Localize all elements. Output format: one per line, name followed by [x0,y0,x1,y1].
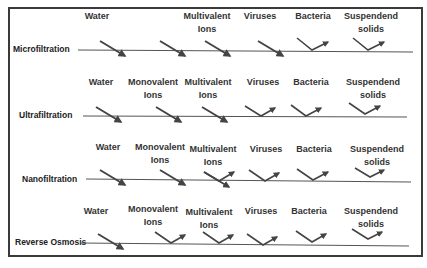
label-suspended-solids: Suspendend [344,11,398,21]
membrane-line [78,50,413,52]
label-viruses: Viruses [245,206,277,216]
label-monovalent: Monovalent [135,142,185,152]
reject-arrow-icon [155,232,185,243]
label-suspended-solids-2: solids [358,24,384,34]
label-multivalent-2: Ions [204,157,223,167]
label-bacteria: Bacteria [295,11,332,21]
label-suspended-solids-2: solids [364,157,390,167]
pass-arrow-icon [100,41,125,56]
reject-arrow-icon [203,232,233,243]
label-water: Water [96,142,121,152]
reject-arrow-icon [245,106,275,116]
label-viruses: Viruses [247,77,279,87]
label-suspended-solids: Suspendend [350,144,404,154]
label-suspended-solids-2: solids [358,219,384,229]
label-monovalent-2: Ions [151,155,170,165]
row-reverse-osmosis: Reverse Osmosis Water Monovalent Ions Mu… [15,204,409,249]
label-suspended-solids-2: solids [360,90,386,100]
label-monovalent-2: Ions [144,90,163,100]
filtration-diagram: Microfiltration Water Multivalent Ions V… [0,0,427,268]
label-water: Water [89,77,114,87]
label-viruses: Viruses [250,144,282,154]
process-label: Nanofiltration [22,174,77,184]
pass-arrow-icon [100,170,125,185]
label-multivalent-2: Ions [200,220,219,230]
pass-arrow-icon [156,107,181,122]
reject-arrow-icon [247,234,277,245]
pass-arrow-icon [160,170,185,185]
reject-arrow-icon [297,38,328,50]
reject-arrow-icon [349,103,380,114]
process-label: Reverse Osmosis [15,237,87,247]
label-monovalent: Monovalent [128,204,178,214]
reject-arrow-icon [297,169,328,180]
label-monovalent-2: Ions [144,217,163,227]
label-bacteria: Bacteria [293,77,330,87]
pass-arrow-icon [160,41,185,56]
row-ultrafiltration: Ultrafiltration Water Monovalent Ions Mu… [19,77,407,122]
membrane-line [83,116,407,117]
membrane-line [86,179,411,182]
label-suspended-solids: Suspendend [344,206,398,216]
label-multivalent: Multivalent [183,11,230,21]
label-multivalent: Multivalent [185,207,232,217]
process-label: Ultrafiltration [19,110,72,120]
pass-arrow-icon [205,41,230,56]
label-bacteria: Bacteria [296,144,333,154]
label-water: Water [84,206,109,216]
label-bacteria: Bacteria [291,206,328,216]
process-label: Microfiltration [13,44,70,54]
reject-arrow-icon [352,229,382,239]
label-viruses: Viruses [244,11,276,21]
reject-arrow-icon [353,38,384,50]
membrane-line [80,243,409,246]
reject-arrow-icon [296,231,326,242]
reject-arrow-icon [291,105,321,116]
label-suspended-solids: Suspendend [346,77,400,87]
label-monovalent: Monovalent [128,77,178,87]
pass-arrow-icon [202,107,227,122]
label-multivalent-2: Ions [198,24,217,34]
pass-arrow-icon [258,41,283,56]
pass-arrow-icon [96,107,121,122]
label-multivalent: Multivalent [189,144,236,154]
pass-arrow-icon [98,234,123,249]
reject-arrow-icon [249,170,279,181]
reject-arrow-icon [355,168,384,177]
row-nanofiltration: Nanofiltration Water Monovalent Ions Mul… [22,142,411,187]
label-multivalent: Multivalent [184,77,231,87]
row-microfiltration: Microfiltration Water Multivalent Ions V… [13,11,413,56]
label-multivalent-2: Ions [199,90,218,100]
label-water: Water [85,11,110,21]
